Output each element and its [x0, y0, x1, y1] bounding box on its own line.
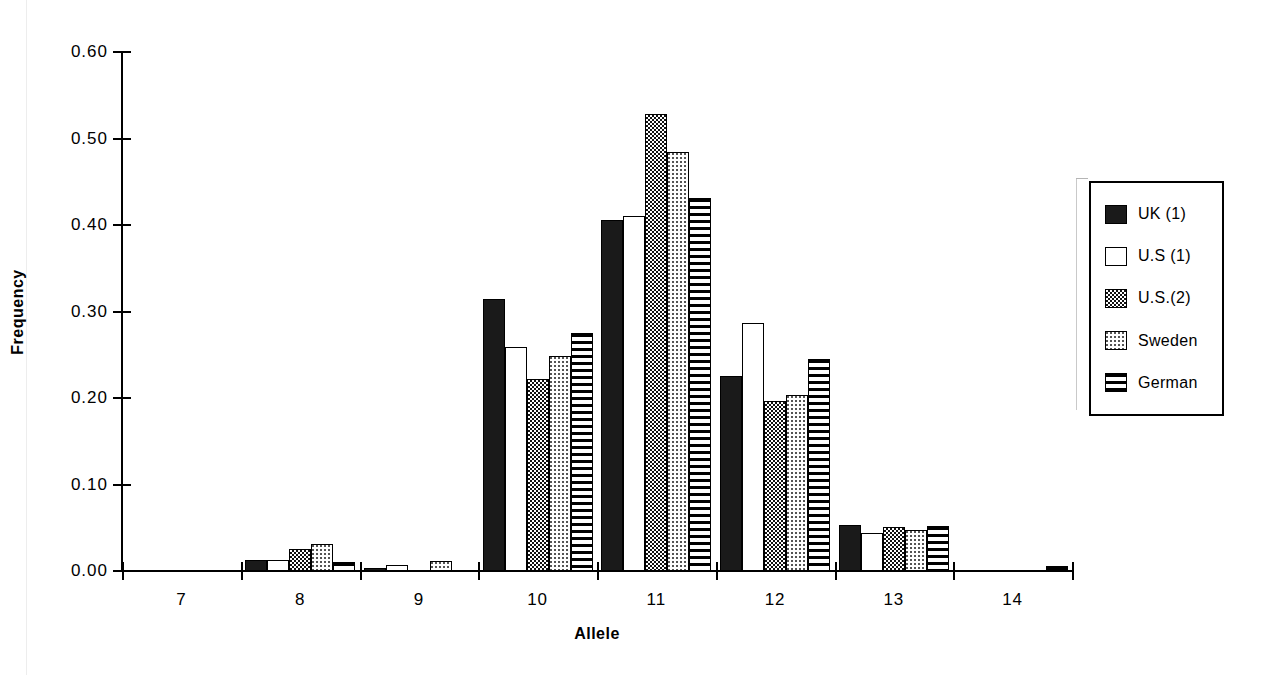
bar [883, 527, 905, 571]
bar [742, 323, 764, 571]
bar [571, 333, 593, 571]
y-axis-tick [113, 138, 131, 140]
y-axis-tick [113, 484, 131, 486]
x-axis-title: Allele [574, 625, 620, 643]
legend-items: UK (1)U.S (1)U.S.(2)SwedenGerman [1091, 183, 1222, 414]
bar [720, 376, 742, 571]
bar [667, 152, 689, 571]
bar [786, 395, 808, 571]
bar [927, 526, 949, 571]
legend-item-label: U.S.(2) [1138, 289, 1191, 307]
legend-item-label: UK (1) [1138, 205, 1186, 223]
y-axis-tick-label: 0.30 [71, 302, 108, 322]
x-axis-tick [716, 562, 718, 580]
x-axis-tick-label: 8 [295, 590, 305, 610]
x-axis-tick [835, 562, 837, 580]
bar [1046, 566, 1068, 571]
legend-scan-artifact [1076, 178, 1077, 410]
chart-legend: UK (1)U.S (1)U.S.(2)SwedenGerman [1089, 181, 1224, 416]
x-axis-tick-label: 11 [647, 590, 667, 610]
y-axis-tick [113, 51, 131, 53]
bar [623, 216, 645, 571]
y-axis-tick-label: 0.40 [71, 215, 108, 235]
y-axis-tick-label: 0.00 [71, 561, 108, 581]
legend-item: U.S.(2) [1105, 289, 1222, 308]
bar [808, 359, 830, 571]
legend-swatch-sweden [1105, 331, 1127, 350]
x-axis-tick-label: 10 [527, 590, 548, 610]
legend-item: German [1105, 373, 1222, 392]
legend-swatch-us1 [1105, 247, 1127, 266]
y-axis-tick-labels: 0.000.100.200.300.400.500.60 [0, 0, 108, 675]
bar [601, 220, 623, 571]
legend-scan-artifact-tick [1076, 178, 1088, 179]
bar [839, 525, 861, 571]
bar [689, 198, 711, 571]
y-axis-tick [113, 570, 131, 572]
bar [505, 347, 527, 571]
legend-item: UK (1) [1105, 205, 1222, 224]
y-axis-tick-label: 0.50 [71, 129, 108, 149]
plot-area [122, 52, 1072, 571]
bar [333, 562, 355, 572]
bar-chart-figure: Frequency 0.000.100.200.300.400.500.60 7… [0, 0, 1261, 675]
x-axis-tick-label: 7 [176, 590, 186, 610]
y-axis-tick [113, 224, 131, 226]
x-axis-tick [360, 562, 362, 580]
legend-item: U.S (1) [1105, 247, 1222, 266]
bar [527, 379, 549, 571]
x-axis-tick [478, 562, 480, 580]
y-axis-tick-label: 0.20 [71, 388, 108, 408]
bar [386, 565, 408, 571]
legend-item-label: German [1138, 374, 1198, 392]
bar [311, 544, 333, 571]
bar [430, 561, 452, 571]
bar [245, 560, 267, 571]
legend-item-label: U.S (1) [1138, 247, 1191, 265]
x-axis-tick [241, 562, 243, 580]
bar [289, 549, 311, 571]
x-axis-tick-label: 12 [765, 590, 786, 610]
bar [267, 560, 289, 571]
x-axis-tick [953, 562, 955, 580]
y-axis-tick [113, 397, 131, 399]
x-axis-tick [597, 562, 599, 580]
legend-swatch-german [1105, 373, 1127, 392]
x-axis-tick [1072, 562, 1074, 580]
bar [905, 530, 927, 571]
bar [364, 568, 386, 571]
legend-swatch-uk [1105, 205, 1127, 224]
legend-item: Sweden [1105, 331, 1222, 350]
bar [861, 533, 883, 571]
x-axis-tick-label: 13 [883, 590, 904, 610]
bar [549, 356, 571, 571]
bar [764, 401, 786, 571]
legend-swatch-us2 [1105, 289, 1127, 308]
y-axis-tick-label: 0.60 [71, 42, 108, 62]
legend-item-label: Sweden [1138, 332, 1198, 350]
bar [645, 114, 667, 571]
x-axis-tick-label: 14 [1002, 590, 1023, 610]
y-axis-tick-label: 0.10 [71, 475, 108, 495]
bar [483, 299, 505, 571]
x-axis-tick-label: 9 [414, 590, 424, 610]
y-axis-tick [113, 311, 131, 313]
